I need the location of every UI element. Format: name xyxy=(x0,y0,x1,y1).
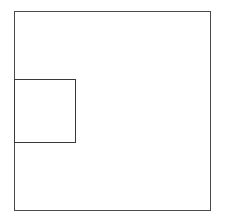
inner-square-shape xyxy=(15,80,76,143)
outer-square-shape xyxy=(15,12,211,211)
line-drawing-figure xyxy=(0,0,227,217)
figure-canvas xyxy=(0,0,227,217)
